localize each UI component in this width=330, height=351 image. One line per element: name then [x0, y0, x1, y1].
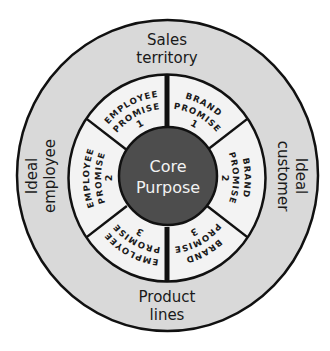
- outer-label-right-line2: customer: [274, 141, 292, 212]
- outer-label-top-line1: Sales: [147, 31, 187, 49]
- segment-label-line: 2: [220, 175, 231, 182]
- outer-label-bottom-line2: lines: [150, 306, 185, 324]
- outer-label-top-line2: territory: [136, 49, 198, 67]
- outer-label-left-line1: Ideal: [23, 158, 41, 195]
- core-purpose-circle: [119, 127, 217, 225]
- core-label-line2: Purpose: [136, 178, 200, 197]
- outer-label-bottom-line1: Product: [139, 288, 196, 306]
- core-label-line1: Core: [149, 157, 186, 176]
- outer-label-right-line1: Ideal: [292, 158, 310, 195]
- core-purpose-diagram: Sales territory Product lines Ideal empl…: [0, 0, 330, 351]
- segment-label-line: 2: [103, 175, 114, 182]
- outer-label-left-line2: employee: [41, 139, 59, 213]
